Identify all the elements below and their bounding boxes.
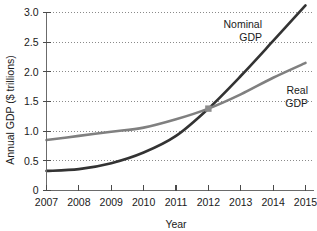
gridlines — [47, 13, 315, 161]
y-axis-title: Annual GDP ($ trillions) — [4, 55, 16, 165]
y-tick-label: 0.5 — [24, 155, 39, 167]
y-tick-label: 1.5 — [24, 95, 39, 107]
x-tick-label: 2010 — [132, 196, 156, 208]
y-tick-label: 3.0 — [24, 6, 39, 18]
x-tick-label: 2007 — [35, 196, 59, 208]
x-tick-label: 2014 — [261, 196, 285, 208]
x-axis-title: Year — [165, 218, 187, 230]
x-tick-label: 2011 — [165, 196, 188, 208]
x-tick-label: 2009 — [100, 196, 124, 208]
series-label-real-line2: GDP — [285, 97, 308, 109]
y-tick-label: 0 — [33, 184, 39, 196]
y-tick-label: 2.5 — [24, 36, 39, 48]
series-label-nominal-line1: Nominal — [223, 18, 262, 30]
intersection-marker-group — [205, 105, 211, 111]
x-tick-label: 2013 — [229, 196, 253, 208]
intersection-marker — [205, 105, 211, 111]
chart-canvas: 00.51.01.52.02.53.0 20072008200920102011… — [0, 0, 317, 231]
plot-series — [47, 5, 306, 171]
series-line-nominal-gdp — [47, 5, 306, 171]
x-axis-tick-labels: 200720082009201020112012201320142015 — [35, 196, 317, 208]
x-tick-label: 2015 — [294, 196, 317, 208]
y-axis-tick-labels: 00.51.01.52.02.53.0 — [24, 6, 39, 196]
series-label-real-line1: Real — [286, 84, 308, 96]
y-tick-label: 1.0 — [24, 125, 39, 137]
gdp-line-chart: 00.51.01.52.02.53.0 20072008200920102011… — [0, 0, 317, 231]
y-tick-label: 2.0 — [24, 66, 39, 78]
x-tick-label: 2012 — [197, 196, 221, 208]
series-label-nominal-line2: GDP — [239, 31, 262, 43]
x-tick-label: 2008 — [67, 196, 91, 208]
